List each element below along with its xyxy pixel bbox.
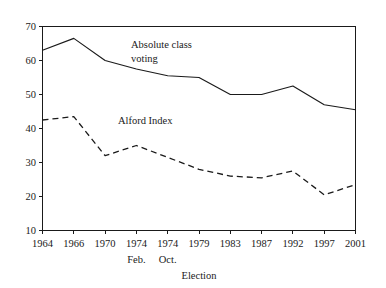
series-annotation: Absolute class voting — [131, 38, 192, 66]
y-tick-marks — [39, 27, 43, 231]
x-tick-marks — [43, 231, 356, 235]
y-tick-label: 70 — [8, 21, 36, 32]
axes-group — [43, 27, 356, 231]
series-line-absolute-class-voting — [43, 38, 356, 109]
x-sub-label: Feb. — [127, 255, 145, 266]
y-tick-label: 30 — [8, 157, 36, 168]
x-tick-label: 1964 — [32, 239, 53, 250]
x-sub-label: Oct. — [159, 255, 177, 266]
x-axis-title: Election — [182, 271, 217, 282]
x-tick-label: 1992 — [282, 239, 303, 250]
y-tick-label: 10 — [8, 225, 36, 236]
series-line-alford-index — [43, 117, 356, 195]
x-tick-label: 1974 — [157, 239, 178, 250]
x-tick-label: 1974 — [126, 239, 147, 250]
y-tick-label: 60 — [8, 55, 36, 66]
y-tick-label: 20 — [8, 191, 36, 202]
x-tick-label: 1987 — [251, 239, 272, 250]
x-tick-label: 1997 — [314, 239, 335, 250]
x-tick-label: 1970 — [95, 239, 116, 250]
series-annotation: Alford Index — [118, 114, 173, 128]
x-tick-label: 1979 — [189, 239, 210, 250]
chart-container: 10203040506070 1964196619701974197419791… — [0, 0, 386, 288]
x-tick-label: 1966 — [63, 239, 84, 250]
y-tick-label: 50 — [8, 89, 36, 100]
x-tick-label: 2001 — [345, 239, 366, 250]
x-tick-label: 1983 — [220, 239, 241, 250]
y-tick-label: 40 — [8, 123, 36, 134]
